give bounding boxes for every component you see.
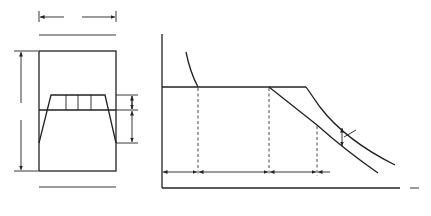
diagram-canvas <box>0 0 431 216</box>
plate-outline <box>39 51 116 171</box>
height-dimension <box>14 51 38 171</box>
curve-g-f <box>186 52 198 87</box>
figure-a <box>0 0 138 187</box>
curve-e-d-c <box>269 87 378 173</box>
figure-b <box>0 0 419 188</box>
width-dimension <box>39 11 116 22</box>
residual-stress-distribution <box>39 95 138 143</box>
